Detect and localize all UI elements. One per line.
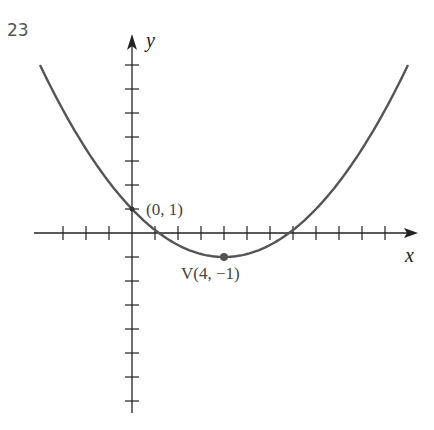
parabola-graph: x y (0, 1) V(4, −1) bbox=[0, 0, 434, 430]
axes bbox=[34, 34, 418, 413]
x-axis-label: x bbox=[404, 244, 414, 266]
y-intercept-point bbox=[130, 207, 135, 212]
y-axis-label: y bbox=[144, 29, 155, 52]
y-intercept-label: (0, 1) bbox=[146, 200, 183, 219]
vertex-label: V(4, −1) bbox=[181, 264, 240, 283]
vertex-point bbox=[220, 253, 228, 261]
